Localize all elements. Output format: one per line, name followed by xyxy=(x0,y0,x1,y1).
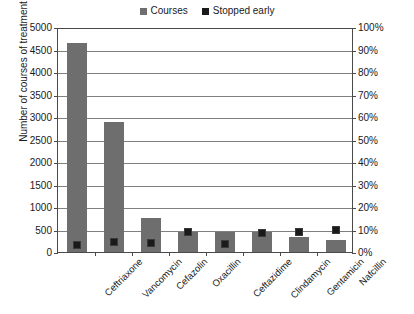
y-axis-tick-right xyxy=(352,118,356,119)
gridline xyxy=(58,51,352,52)
marker-stopped-early-vancomycin xyxy=(110,238,118,246)
gridline xyxy=(58,186,352,187)
gridline xyxy=(58,73,352,74)
chart-container: Courses Stopped early Number of courses … xyxy=(0,0,414,314)
bar-vancomycin xyxy=(104,122,124,252)
y-axis-tick-label-right: 90% xyxy=(358,46,398,56)
y-axis-tick-right xyxy=(352,96,356,97)
y-axis-tick-label-left: 1000 xyxy=(12,203,52,213)
x-axis-label-oxacillin: Oxacillin xyxy=(209,256,242,289)
x-axis-label-vancomycin: Vancomycin xyxy=(139,256,183,300)
gridline xyxy=(58,208,352,209)
y-axis-tick-right xyxy=(352,51,356,52)
y-axis-tick-label-left: 3500 xyxy=(12,91,52,101)
y-axis-tick-right xyxy=(352,141,356,142)
y-axis-tick-right xyxy=(352,28,356,29)
legend-item-stopped-early: Stopped early xyxy=(202,6,275,16)
marker-stopped-early-ceftazidime xyxy=(221,240,229,248)
y-axis-tick-right xyxy=(352,208,356,209)
gridline xyxy=(58,28,352,29)
legend-label-courses: Courses xyxy=(151,6,188,16)
y-axis-tick-label-right: 40% xyxy=(358,158,398,168)
y-axis-tick-label-left: 3000 xyxy=(12,113,52,123)
legend-item-courses: Courses xyxy=(140,6,188,16)
x-axis-category-labels: CeftriaxoneVancomycinCefazolinOxacillinC… xyxy=(57,256,353,314)
bar-gentamicin xyxy=(289,237,309,252)
y-axis-tick-label-left: 500 xyxy=(12,226,52,236)
marker-stopped-early-oxacillin xyxy=(184,228,192,236)
gridline xyxy=(58,141,352,142)
bar-ceftriaxone xyxy=(67,43,87,252)
y-axis-tick-label-left: 4000 xyxy=(12,68,52,78)
y-axis-tick-right xyxy=(352,186,356,187)
y-axis-tick-right xyxy=(352,73,356,74)
y-axis-tick-label-left: 0 xyxy=(12,248,52,258)
legend-swatch-courses xyxy=(140,8,147,15)
y-axis-tick-label-left: 2000 xyxy=(12,158,52,168)
y-axis-tick-left xyxy=(54,96,58,97)
y-axis-tick-right xyxy=(352,253,356,254)
y-axis-tick-left xyxy=(54,253,58,254)
y-axis-tick-left xyxy=(54,231,58,232)
gridline xyxy=(58,231,352,232)
gridline xyxy=(58,96,352,97)
y-axis-tick-label-left: 4500 xyxy=(12,46,52,56)
marker-stopped-early-nafcillin xyxy=(332,226,340,234)
gridline xyxy=(58,118,352,119)
y-axis-tick-left xyxy=(54,186,58,187)
y-axis-tick-right xyxy=(352,163,356,164)
y-axis-tick-left xyxy=(54,51,58,52)
y-axis-tick-left xyxy=(54,141,58,142)
plot-area: 5000100%450090%400080%350070%300060%2500… xyxy=(57,28,353,253)
y-axis-tick-label-right: 30% xyxy=(358,181,398,191)
y-axis-tick-label-right: 80% xyxy=(358,68,398,78)
y-axis-tick-left xyxy=(54,28,58,29)
gridline xyxy=(58,163,352,164)
marker-stopped-early-cefazolin xyxy=(147,239,155,247)
y-axis-tick-left xyxy=(54,208,58,209)
legend-label-stopped-early: Stopped early xyxy=(213,6,275,16)
y-axis-tick-label-left: 5000 xyxy=(12,23,52,33)
x-axis-label-clindamycin: Clindamycin xyxy=(288,256,332,300)
y-axis-tick-left xyxy=(54,73,58,74)
y-axis-tick-left xyxy=(54,118,58,119)
y-axis-tick-label-left: 2500 xyxy=(12,136,52,146)
y-axis-tick-label-right: 50% xyxy=(358,136,398,146)
x-axis-label-ceftriaxone: Ceftriaxone xyxy=(102,256,144,298)
y-axis-tick-label-right: 10% xyxy=(358,226,398,236)
y-axis-tick-right xyxy=(352,231,356,232)
y-axis-tick-label-right: 20% xyxy=(358,203,398,213)
y-axis-tick-label-right: 70% xyxy=(358,91,398,101)
y-axis-tick-label-left: 1500 xyxy=(12,181,52,191)
marker-stopped-early-clindamycin xyxy=(258,229,266,237)
y-axis-tick-label-right: 60% xyxy=(358,113,398,123)
marker-stopped-early-ceftriaxone xyxy=(73,241,81,249)
bar-nafcillin xyxy=(326,240,346,252)
x-axis-label-ceftazidime: Ceftazidime xyxy=(250,256,293,299)
chart-legend: Courses Stopped early xyxy=(0,6,414,16)
legend-swatch-stopped-early xyxy=(202,8,209,15)
y-axis-tick-left xyxy=(54,163,58,164)
y-axis-tick-label-right: 100% xyxy=(358,23,398,33)
marker-stopped-early-gentamicin xyxy=(295,228,303,236)
